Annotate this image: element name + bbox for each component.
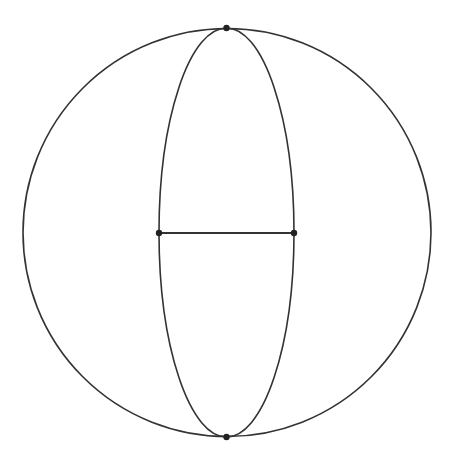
- vertex-top: [223, 25, 229, 31]
- vertex-left: [156, 230, 162, 236]
- vertex-right: [291, 230, 297, 236]
- diagram-canvas: [0, 0, 451, 460]
- vertex-bottom: [223, 434, 229, 440]
